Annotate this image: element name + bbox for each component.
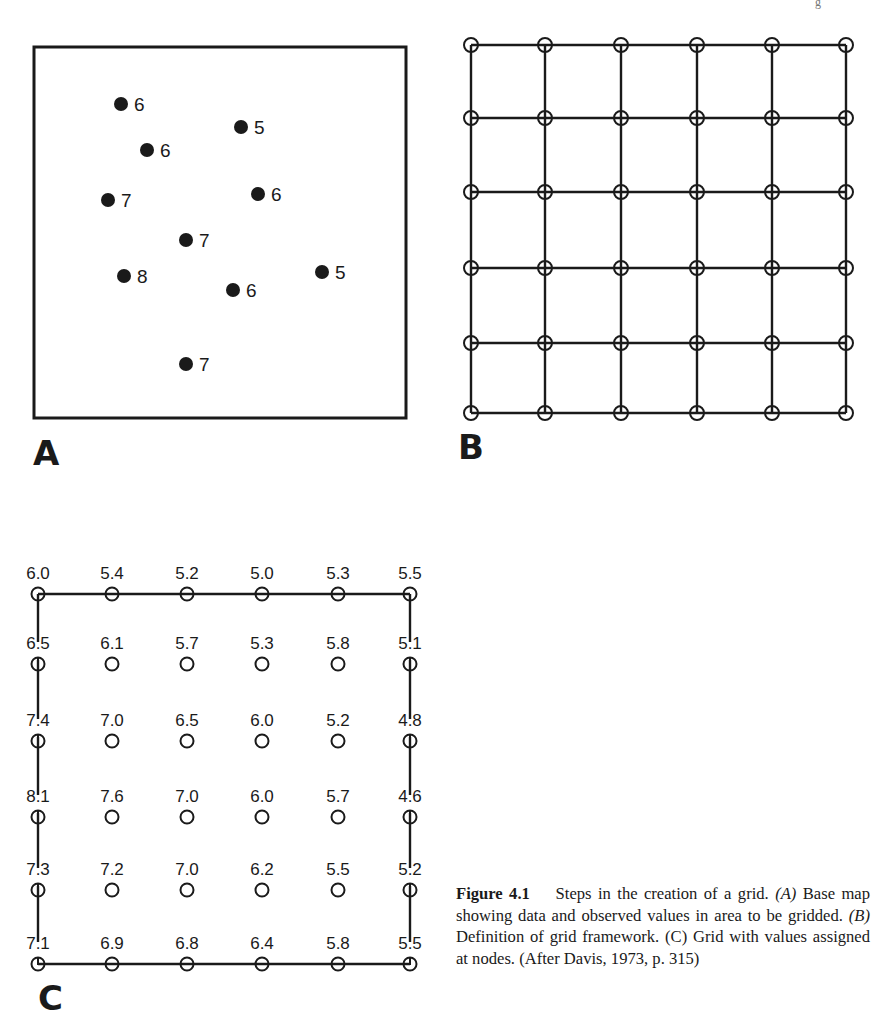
node-value: 7.0 [175,787,199,806]
node-value: 5.2 [175,564,199,583]
observed-value: 5 [335,262,346,283]
node-value: 7.0 [100,711,124,730]
dot-marker [234,120,248,134]
node-value: 5.7 [175,634,199,653]
panel-a-base-map: 6567678657 A [33,47,406,473]
dot-marker [114,97,128,111]
caption-title: Steps in the creation of a grid. [556,884,769,903]
grid-lines [471,45,846,413]
node-value: 8.1 [26,787,50,806]
grid-node [256,658,269,671]
node-value: 6.4 [250,934,274,953]
observed-value: 7 [121,190,132,211]
node-value: 6.5 [26,634,50,653]
node-value: 5.3 [326,564,350,583]
panel-label-c: C [38,978,63,1018]
data-point: 5 [234,117,265,138]
grid-boundary [38,594,410,965]
data-point: 6 [140,140,171,161]
grid-node [106,811,119,824]
node-value: 5.2 [326,711,350,730]
observed-value: 7 [199,354,210,375]
node-value: 6.1 [100,634,124,653]
grid-node [181,735,194,748]
figure-caption: Figure 4.1 Steps in the creation of a gr… [456,883,870,969]
node-value: 5.1 [398,634,422,653]
node-value: 4.8 [398,711,422,730]
node-value: 5.5 [398,564,422,583]
dot-marker [140,143,154,157]
node-value: 7.6 [100,787,124,806]
dot-marker [226,283,240,297]
dot-marker [117,269,131,283]
observed-value: 6 [271,184,282,205]
data-point: 7 [179,354,210,375]
node-value: 6.5 [175,711,199,730]
grid-node [256,735,269,748]
node-values: 6.05.45.25.05.35.56.56.15.75.35.85.17.47… [26,564,422,953]
dot-marker [251,187,265,201]
data-point: 7 [179,230,210,251]
data-point: 6 [226,280,257,301]
figure-number: Figure 4.1 [456,884,530,903]
node-value: 6.0 [250,787,274,806]
data-point: 5 [315,262,346,283]
data-point: 6 [114,94,145,115]
grid-node [106,735,119,748]
caption-source: (After Davis, 1973, p. 315) [519,949,699,968]
grid-node [332,658,345,671]
dot-marker [315,265,329,279]
grid-nodes [464,38,853,420]
data-point: 6 [251,184,282,205]
grid-node [256,884,269,897]
node-value: 5.7 [326,787,350,806]
node-value: 5.5 [326,860,350,879]
node-value: 7.1 [26,934,50,953]
grid-node [332,735,345,748]
node-value: 7.0 [175,860,199,879]
grid-node [106,658,119,671]
dot-marker [101,193,115,207]
node-value: 5.8 [326,934,350,953]
grid-node [181,658,194,671]
grid-node [332,811,345,824]
dot-marker [179,357,193,371]
node-value: 6.0 [26,564,50,583]
observed-value: 7 [199,230,210,251]
node-value: 7.3 [26,860,50,879]
node-value: 5.8 [326,634,350,653]
node-value: 6.2 [250,860,274,879]
grid-node [106,884,119,897]
grid-node [256,811,269,824]
node-value: 5.3 [250,634,274,653]
panel-label-b: B [458,427,484,467]
node-value: 6.0 [250,711,274,730]
node-value: 5.4 [100,564,124,583]
node-value: 7.2 [100,860,124,879]
node-value: 4.6 [398,787,422,806]
data-points: 6567678657 [101,94,346,375]
node-value: 5.0 [250,564,274,583]
data-point: 8 [117,266,148,287]
grid-node [332,884,345,897]
node-value: 6.8 [175,934,199,953]
panel-label-a: A [33,433,60,473]
caption-part-c-tag: (C) [665,927,687,946]
observed-value: 6 [134,94,145,115]
node-value: 6.9 [100,934,124,953]
dot-marker [179,233,193,247]
caption-part-a-tag: (A) [775,884,796,903]
caption-part-b-tag: (B) [849,906,870,925]
node-value: 5.5 [398,934,422,953]
panel-b-grid-framework: B [458,38,853,467]
grid-node [181,884,194,897]
data-point: 7 [101,190,132,211]
observed-value: 5 [254,117,265,138]
figure-canvas: g 6567678657 A B 6.05.45.25.05.35.56.56.… [0,0,886,1018]
map-boundary [34,47,406,418]
node-value: 7.4 [26,711,50,730]
grid-nodes [32,588,417,971]
node-value: 5.2 [398,860,422,879]
observed-value: 6 [160,140,171,161]
grid-node [181,811,194,824]
